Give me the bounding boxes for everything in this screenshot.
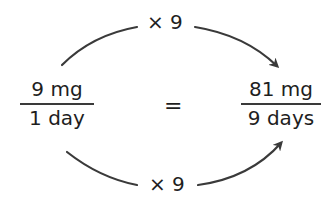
- top-arc-right-arrow-icon: [195, 27, 277, 66]
- right-fraction: 81 mg 9 days: [241, 78, 321, 129]
- right-numerator: 81 mg: [241, 78, 321, 100]
- equals-sign: =: [164, 95, 182, 117]
- left-fraction: 9 mg 1 day: [20, 78, 94, 129]
- left-fraction-bar: [20, 103, 94, 105]
- left-numerator: 9 mg: [20, 78, 94, 100]
- bottom-arc-right-arrow-icon: [198, 143, 281, 185]
- right-fraction-bar: [241, 103, 321, 105]
- left-denominator: 1 day: [20, 107, 94, 129]
- right-denominator: 9 days: [241, 107, 321, 129]
- top-arc-left: [62, 27, 137, 65]
- bottom-multiplier-label: × 9: [149, 174, 185, 194]
- top-multiplier-label: × 9: [147, 12, 183, 32]
- bottom-arc-left: [67, 152, 137, 185]
